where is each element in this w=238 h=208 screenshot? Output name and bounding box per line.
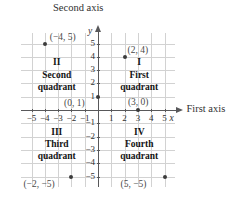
quadrant-4: IVFourthquadrant — [107, 126, 171, 163]
x-tick-mark — [71, 109, 72, 112]
point-label: (−2, −5) — [23, 179, 54, 189]
plotted-point — [96, 95, 100, 99]
y-tick-mark — [97, 57, 100, 58]
quadrant-3-line-1: III — [25, 126, 89, 138]
plotted-point — [43, 42, 47, 46]
x-axis-arrow-icon — [176, 107, 183, 113]
point-label: (2, 4) — [128, 45, 149, 55]
y-axis-arrow-icon — [95, 25, 101, 32]
quadrant-3: IIIThirdquadrant — [25, 126, 89, 163]
x-tick-mark — [58, 109, 59, 112]
point-label: (−4, 5) — [50, 32, 76, 42]
quadrant-2: IISecondquadrant — [25, 56, 89, 93]
quadrant-4-line-2: Fourth — [107, 138, 171, 150]
quadrant-1-line-1: I — [107, 56, 171, 68]
y-tick-mark — [97, 137, 100, 138]
quadrant-1-line-3: quadrant — [107, 81, 171, 93]
vertical-axis-title: Second axis — [53, 2, 103, 13]
plotted-point — [136, 108, 140, 112]
plotted-point — [123, 55, 127, 59]
coordinate-plane-figure: Second axis First axis y x −5−4−3−2−1123… — [0, 0, 238, 208]
y-tick-mark — [97, 177, 100, 178]
horizontal-axis-title: First axis — [186, 103, 225, 114]
x-tick-mark — [151, 109, 152, 112]
y-tick-mark — [97, 123, 100, 124]
quadrant-1-line-2: First — [107, 69, 171, 81]
x-tick-mark — [111, 109, 112, 112]
y-variable-label: y — [88, 26, 92, 36]
quadrant-1: IFirstquadrant — [107, 56, 171, 93]
y-tick-mark — [97, 163, 100, 164]
point-label: (0, 1) — [64, 98, 85, 108]
x-tick-mark — [125, 109, 126, 112]
y-tick-mark — [97, 150, 100, 151]
x-tick-mark — [165, 109, 166, 112]
y-tick-mark — [97, 83, 100, 84]
y-tick-label: −5 — [75, 171, 95, 181]
point-label: (5, −5) — [121, 179, 147, 189]
quadrant-3-line-3: quadrant — [25, 150, 89, 162]
x-tick-mark — [85, 109, 86, 112]
plotted-point — [163, 175, 167, 179]
quadrant-2-line-1: II — [25, 56, 89, 68]
plotted-point — [69, 175, 73, 179]
quadrant-4-line-1: IV — [107, 126, 171, 138]
y-tick-label: 5 — [75, 38, 95, 48]
point-label: (3, 0) — [128, 97, 149, 107]
quadrant-2-line-3: quadrant — [25, 81, 89, 93]
quadrant-2-line-2: Second — [25, 69, 89, 81]
y-tick-mark — [97, 44, 100, 45]
y-tick-mark — [97, 70, 100, 71]
quadrant-4-line-3: quadrant — [107, 150, 171, 162]
quadrant-3-line-2: Third — [25, 138, 89, 150]
x-tick-label: 5 — [156, 113, 174, 123]
x-tick-mark — [45, 109, 46, 112]
x-tick-mark — [32, 109, 33, 112]
